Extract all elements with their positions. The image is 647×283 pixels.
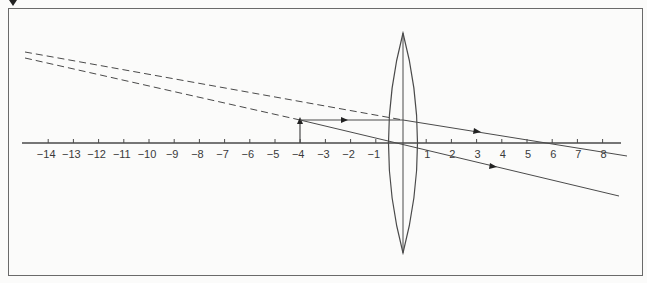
axis-tick-label: 6 [550,148,556,160]
axis-tick-label: −10 [138,148,157,160]
axis-tick-label: 8 [601,148,607,160]
axis-tick-label: −8 [191,148,204,160]
ray-direction-arrow-icon [341,117,348,123]
corner-marker-icon [9,0,17,6]
ray-direction-arrow-icon [489,163,497,169]
ray-direction-arrow-icon [473,128,481,134]
axis-tick-label: 2 [449,148,455,160]
axis-tick-label: −7 [216,148,229,160]
ray-diagram: −14−13−12−11−10−9−8−7−6−5−4−3−2−11234567… [0,0,647,283]
axis-tick-label: −1 [368,148,381,160]
axis-tick-label: 5 [525,148,531,160]
axis-tick-label: −13 [62,148,81,160]
axis-tick-label: −4 [292,148,305,160]
axis-tick-label: −6 [242,148,255,160]
axis-tick-label: −2 [342,148,355,160]
axis-tick-label: −11 [113,148,131,160]
virtual-extension-central-ray [25,58,300,120]
axis-tick-label: −9 [166,148,179,160]
axis-tick-label: 4 [500,148,506,160]
axis-tick-label: 3 [475,148,481,160]
axis-tick-label: −3 [317,148,330,160]
axis-tick-label: −5 [267,148,280,160]
axis-tick-label: −12 [87,148,106,160]
virtual-extension-parallel-ray [25,52,403,120]
axis-tick-label: 7 [575,148,581,160]
axis-tick-label: −14 [37,148,56,160]
axis-ticks: −14−13−12−11−10−9−8−7−6−5−4−3−2−11234567… [37,139,607,160]
parallel-ray-refracted [403,120,627,156]
